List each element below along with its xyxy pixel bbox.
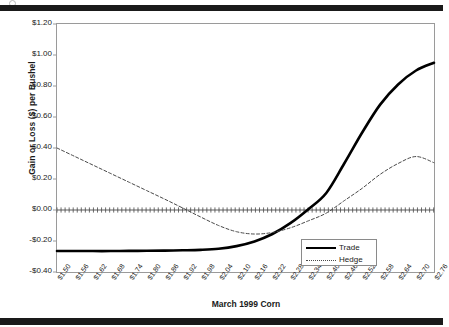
legend-label-trade: Trade — [339, 242, 360, 254]
plot-canvas — [0, 11, 443, 318]
legend-entry-trade: Trade — [302, 242, 378, 254]
legend-label-hedge: Hedge — [339, 254, 363, 266]
legend-swatch-dotted-icon — [306, 260, 336, 261]
chart-legend: Trade Hedge — [301, 239, 377, 266]
legend-swatch-solid-icon — [306, 247, 336, 249]
legend-entry-hedge: Hedge — [302, 254, 378, 266]
chart-figure: Gain or Loss ($) per Bushel $1.20$1.00$0… — [0, 11, 443, 318]
plot-frame — [57, 24, 435, 273]
scan-bar-bottom — [0, 318, 443, 325]
x-axis-title: March 1999 Corn — [56, 299, 436, 309]
